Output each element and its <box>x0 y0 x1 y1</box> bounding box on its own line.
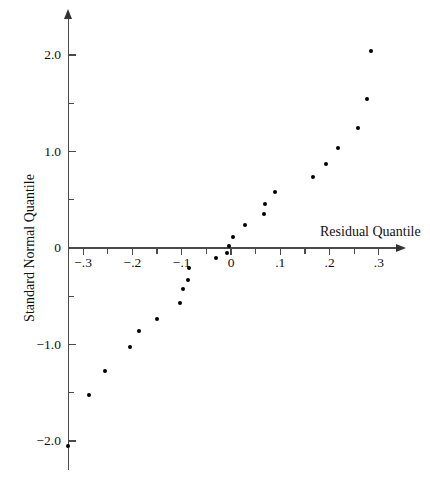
y-axis-tick <box>69 344 76 345</box>
data-point <box>128 345 132 349</box>
data-point <box>225 251 229 255</box>
y-axis-title: Standard Normal Quantile <box>22 174 38 322</box>
x-axis-tick-label: .2 <box>325 256 335 270</box>
y-axis-arrow-icon <box>64 9 72 19</box>
data-point <box>262 212 266 216</box>
data-point <box>214 256 218 260</box>
y-axis-tick-label: 1.0 <box>44 145 61 159</box>
y-axis-tick <box>69 440 76 441</box>
x-axis-tick <box>206 249 207 254</box>
x-axis-tick <box>378 249 379 255</box>
data-point <box>187 266 191 270</box>
x-axis-tick <box>156 249 157 254</box>
x-axis-tick-label: −.2 <box>124 256 142 270</box>
data-point <box>273 190 277 194</box>
y-axis-tick-label: 0 <box>54 241 61 255</box>
data-point <box>155 317 159 321</box>
qq-plot-figure: −.3−.2−.10.1.2.3 2.01.00−1.0−2.0 Residua… <box>0 0 430 477</box>
data-point <box>336 146 340 150</box>
data-point <box>227 244 231 248</box>
data-point <box>186 278 190 282</box>
x-axis-tick <box>329 249 330 255</box>
y-axis-tick <box>69 296 74 297</box>
data-point <box>231 235 235 239</box>
x-axis-tick <box>280 249 281 255</box>
data-point <box>356 126 360 130</box>
data-point <box>178 301 182 305</box>
x-axis-tick <box>255 249 256 254</box>
y-axis-tick <box>69 247 76 248</box>
y-axis-tick-label: 2.0 <box>44 48 61 62</box>
y-axis-tick <box>69 392 74 393</box>
y-axis-tick <box>69 151 76 152</box>
x-axis-tick-label: .1 <box>275 256 285 270</box>
data-point <box>66 444 70 448</box>
x-axis-arrow-icon <box>396 244 406 252</box>
x-axis-tick <box>83 249 84 255</box>
data-point <box>181 287 185 291</box>
y-axis-tick <box>69 103 74 104</box>
x-axis-tick <box>132 249 133 255</box>
data-point <box>137 329 141 333</box>
data-point <box>311 175 315 179</box>
x-axis-line <box>68 247 398 249</box>
data-point <box>87 393 91 397</box>
y-axis-line <box>68 18 70 470</box>
x-axis-tick-label: −.3 <box>74 256 92 270</box>
x-axis-tick-label: .3 <box>374 256 384 270</box>
y-axis-tick <box>69 54 76 55</box>
x-axis-tick <box>354 249 355 254</box>
x-axis-tick <box>230 249 231 255</box>
data-point <box>243 223 247 227</box>
data-point <box>263 202 267 206</box>
data-point <box>365 97 369 101</box>
x-axis-tick-label: 0 <box>228 256 235 270</box>
y-axis-tick <box>69 199 74 200</box>
data-point <box>103 369 107 373</box>
data-point <box>324 162 328 166</box>
y-axis-tick-label: −2.0 <box>37 434 62 448</box>
y-axis-tick-label: −1.0 <box>37 338 62 352</box>
x-axis-title: Residual Quantile <box>320 224 421 240</box>
data-point <box>369 49 373 53</box>
x-axis-tick <box>304 249 305 254</box>
x-axis-tick <box>107 249 108 254</box>
x-axis-tick <box>181 249 182 255</box>
